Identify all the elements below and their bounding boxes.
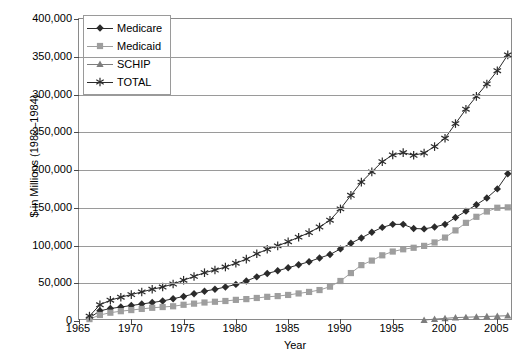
diamond-icon — [87, 23, 113, 33]
legend-item-total[interactable]: TOTAL — [87, 73, 166, 91]
x-tick-label: 2000 — [432, 322, 456, 335]
x-tick-label: 1975 — [170, 322, 194, 335]
chart-legend: MedicareMedicaidSCHIPTOTAL — [83, 15, 171, 95]
x-tick-label: 1985 — [275, 322, 299, 335]
chart-root: 050,000100,000150,000200,000250,000300,0… — [0, 0, 526, 355]
y-tick — [74, 132, 79, 133]
y-tick — [74, 57, 79, 58]
y-tick-label: 0 — [4, 315, 72, 326]
x-tick-label: 1970 — [118, 322, 142, 335]
legend-item-label: SCHIP — [113, 59, 151, 70]
x-tick-label: 1980 — [223, 322, 247, 335]
y-tick-label: 50,000 — [4, 277, 72, 288]
y-gridline — [79, 170, 511, 171]
y-gridline — [79, 95, 511, 96]
y-tick — [74, 95, 79, 96]
legend-item-label: Medicaid — [113, 41, 161, 52]
y-gridline — [79, 57, 511, 58]
legend-item-label: Medicare — [113, 23, 162, 34]
legend-item-label: TOTAL — [113, 77, 151, 88]
legend-item-medicaid[interactable]: Medicaid — [87, 37, 166, 55]
y-gridline — [79, 283, 511, 284]
y-gridline — [79, 132, 511, 133]
x-tick-label: 1965 — [66, 322, 90, 335]
y-tick — [74, 283, 79, 284]
y-tick — [74, 246, 79, 247]
legend-item-medicare[interactable]: Medicare — [87, 19, 166, 37]
x-tick-label: 1990 — [327, 322, 351, 335]
y-tick — [74, 208, 79, 209]
y-tick-label: 400,000 — [4, 13, 72, 24]
x-tick-label: 1995 — [379, 322, 403, 335]
x-axis-title: Year — [78, 339, 512, 351]
y-gridline — [79, 208, 511, 209]
x-tick-label: 2005 — [484, 322, 508, 335]
square-icon — [87, 41, 113, 51]
y-tick — [74, 170, 79, 171]
plot-area: MedicareMedicaidSCHIPTOTAL — [78, 18, 512, 320]
x-axis-tick-labels: 196519701975198019851990199520002005 — [78, 322, 512, 338]
y-tick — [74, 19, 79, 20]
star-icon — [87, 77, 113, 87]
series-medicaid — [86, 204, 511, 322]
triangle-icon — [87, 59, 113, 69]
y-gridline — [79, 246, 511, 247]
y-axis-title: $ in Millions (1982–1984) — [28, 36, 40, 276]
